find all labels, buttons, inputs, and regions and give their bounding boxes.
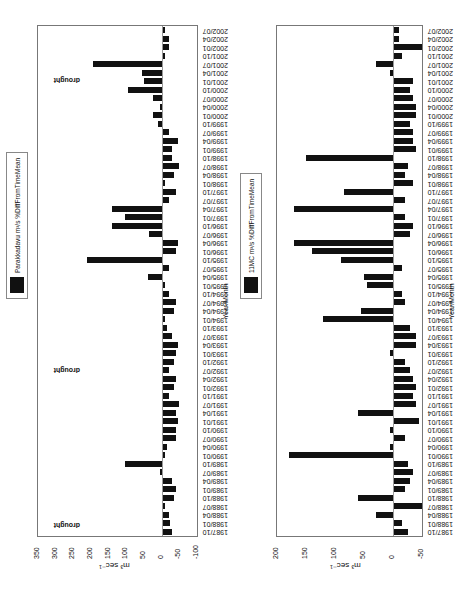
baseline-tick	[162, 69, 163, 78]
x-tick-label: 1995/04	[428, 274, 453, 281]
bar	[393, 469, 413, 475]
baseline-tick	[162, 145, 163, 154]
bar	[162, 367, 169, 373]
bar	[162, 36, 169, 42]
y-tick-label: 100	[121, 547, 128, 559]
y-tick-label: -50	[174, 549, 181, 559]
bar	[162, 359, 174, 365]
y-tick-label: 150	[301, 547, 308, 559]
baseline-tick	[162, 519, 163, 528]
x-tick-label: 1988/04	[428, 512, 453, 519]
baseline-tick	[393, 239, 394, 248]
x-tick-label: 1991/10	[428, 393, 453, 400]
x-tick-label: 1998/01	[203, 181, 228, 188]
x-tick-label: 1996/07	[428, 232, 453, 239]
x-tick-label: 1999/04	[428, 138, 453, 145]
bar	[149, 231, 161, 237]
annotation-drought: drought	[54, 77, 80, 84]
chart-parakkadavu: Parakkadavu m³/s %DiffFromTimeMean -100-…	[0, 0, 236, 589]
x-tick-label: 1991/01	[203, 419, 228, 426]
x-tick-label: 1991/04	[428, 410, 453, 417]
figure-canvas: Parakkadavu m³/s %DiffFromTimeMean -100-…	[0, 0, 473, 589]
x-tick-label: 1997/07	[428, 198, 453, 205]
bar	[393, 461, 408, 467]
baseline-tick	[393, 162, 394, 171]
bar	[162, 435, 176, 441]
x-tick-label: 1992/04	[428, 376, 453, 383]
x-tick-label: 1990/04	[203, 444, 228, 451]
bar	[393, 325, 410, 331]
bar	[162, 384, 174, 390]
baseline-tick	[162, 451, 163, 460]
y-tick-label: 350	[33, 547, 40, 559]
annotation-drought: drought	[54, 367, 80, 374]
baseline-tick	[162, 247, 163, 256]
bar	[393, 53, 402, 59]
x-tick-label: 1990/01	[203, 453, 228, 460]
bar	[393, 172, 405, 178]
bar	[294, 206, 393, 212]
bar	[393, 503, 422, 509]
bar	[376, 512, 393, 518]
baseline-tick	[162, 239, 163, 248]
x-tick-label: 1989/07	[428, 470, 453, 477]
x-tick-label: 1988/10	[203, 495, 228, 502]
baseline-tick	[393, 494, 394, 503]
baseline-tick	[393, 502, 394, 511]
baseline-tick	[393, 519, 394, 528]
x-tick-label: 1990/07	[203, 436, 228, 443]
x-tick-label: 1995/10	[203, 257, 228, 264]
baseline-tick	[162, 256, 163, 265]
baseline-tick	[393, 358, 394, 367]
bar	[162, 376, 176, 382]
x-tick-label: 1987/10	[428, 529, 453, 536]
baseline-tick	[393, 426, 394, 435]
x-tick-label: 1997/04	[203, 206, 228, 213]
baseline-tick	[162, 290, 163, 299]
x-tick-label: 1991/04	[203, 410, 228, 417]
baseline-tick	[162, 26, 163, 35]
bar	[112, 206, 161, 212]
x-tick-label: 1996/10	[428, 223, 453, 230]
baseline-tick	[393, 511, 394, 520]
x-tick-label: 2001/04	[428, 70, 453, 77]
x-tick-label: 1998/04	[203, 172, 228, 179]
bar	[393, 299, 405, 305]
baseline-tick	[162, 43, 163, 52]
legend-11mc: 11MC m³/s %DiffFromTimeMean	[240, 173, 262, 299]
x-tick-label: 2001/04	[203, 70, 228, 77]
x-tick-label: 1999/01	[203, 147, 228, 154]
baseline-tick	[162, 162, 163, 171]
baseline-tick	[393, 375, 394, 384]
baseline-tick	[162, 111, 163, 120]
baseline-tick	[393, 315, 394, 324]
bar	[294, 240, 393, 246]
plot-area	[276, 25, 423, 537]
bar	[393, 78, 413, 84]
x-tick-label: 1993/07	[428, 334, 453, 341]
bar	[393, 376, 413, 382]
bar	[162, 299, 176, 305]
y-tick-label: 200	[86, 547, 93, 559]
x-tick-label: 1993/10	[203, 325, 228, 332]
bar	[393, 163, 408, 169]
baseline-tick	[162, 324, 163, 333]
baseline-tick	[393, 366, 394, 375]
baseline-tick	[162, 77, 163, 86]
y-axis-title: m³ sec⁻¹	[330, 561, 361, 570]
x-tick-label: 1992/07	[203, 368, 228, 375]
x-tick-label: 1995/10	[428, 257, 453, 264]
x-tick-label: 1990/10	[203, 427, 228, 434]
y-tick-label: 50	[139, 551, 146, 559]
x-tick-label: 1996/01	[203, 249, 228, 256]
bar	[153, 95, 162, 101]
bar	[125, 461, 162, 467]
bar	[393, 435, 405, 441]
bar	[162, 240, 178, 246]
bar	[393, 214, 405, 220]
annotation-drought: drought	[54, 522, 80, 529]
baseline-tick	[162, 205, 163, 214]
baseline-tick	[393, 52, 394, 61]
x-tick-label: 1992/10	[428, 359, 453, 366]
bar	[323, 316, 393, 322]
